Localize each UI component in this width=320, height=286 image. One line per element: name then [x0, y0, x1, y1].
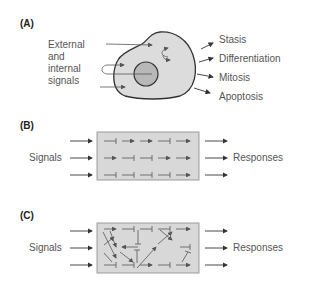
signals-label-b: Signals — [29, 152, 62, 164]
panel-label-b: (B) — [20, 120, 34, 131]
outcome-differentiation: Differentiation — [219, 53, 281, 65]
signals-label-c: Signals — [29, 242, 62, 254]
linear-network-box — [70, 132, 227, 180]
input-label-line-4: signals — [48, 75, 79, 87]
input-label-line-3: internal — [48, 63, 81, 75]
input-label-line-1: External — [48, 39, 85, 51]
outcome-apoptosis: Apoptosis — [219, 91, 263, 103]
outcome-stasis: Stasis — [219, 34, 246, 46]
cell-diagram — [100, 32, 213, 99]
panel-label-a: (A) — [20, 18, 34, 29]
input-label-line-2: and — [48, 51, 65, 63]
panel-label-c: (C) — [20, 210, 34, 221]
interconnected-network-box — [70, 223, 227, 273]
outcome-mitosis: Mitosis — [219, 72, 250, 84]
responses-label-b: Responses — [233, 152, 283, 164]
responses-label-c: Responses — [233, 242, 283, 254]
